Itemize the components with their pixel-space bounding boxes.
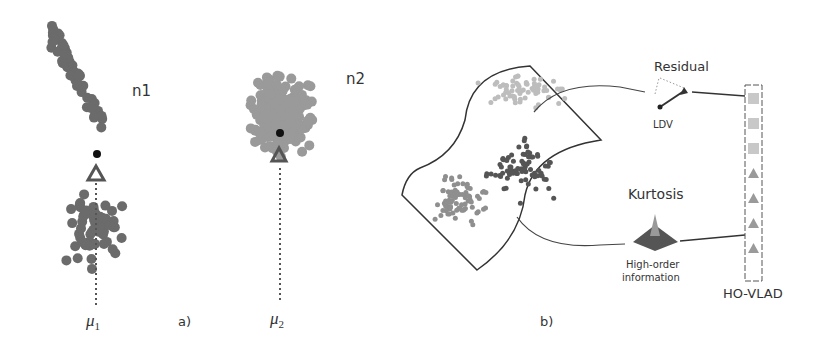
manifold-points [433,74,568,228]
vector-entry-triangle [748,243,759,253]
cluster-n2 [246,71,318,162]
ldv-vector-line [660,91,684,107]
residual-dotted-1 [655,78,659,94]
cluster-n1-label: n1 [132,82,151,100]
kurtosis-label: Kurtosis [628,186,684,202]
diagram-canvas: n1 μ1 a) n2 μ2 Residual LDV Kurtosis Hig… [0,0,819,347]
cluster-n1 [46,21,127,274]
vector-entry-square [748,118,759,129]
vector-entry-square [748,93,759,104]
vector-entry-triangle [748,168,759,178]
high-order-label-line1: High-order [626,259,680,270]
ldv-vector-head [680,87,688,95]
mu2-label: μ2 [269,309,284,330]
vector-entry-triangle [748,193,759,203]
vector-entry-triangle [748,218,759,228]
residual-to-vector-line [692,92,745,96]
cluster-n2-centroid-dot [276,129,284,137]
ldv-label: LDV [653,119,673,130]
panel-a-caption: a) [178,314,191,329]
kurtosis-to-vector-line [680,235,745,241]
ho-vlad-label: HO-VLAD [723,286,783,301]
mu1-label: μ1 [85,311,100,332]
kurtosis-peak [650,214,660,236]
cluster-n1-mean-triangle [88,166,104,180]
ldv-vector-start [658,105,663,110]
cluster-n1-centroid-dot [93,150,101,158]
cluster-n2-label: n2 [346,70,365,88]
kurtosis-connector [517,217,625,246]
high-order-label-line2: information [622,272,680,283]
residual-dotted-2 [660,78,684,88]
residual-label: Residual [654,59,709,74]
panel-b-caption: b) [540,314,553,329]
ho-vlad-entries [748,93,759,253]
vector-entry-square [748,143,759,154]
